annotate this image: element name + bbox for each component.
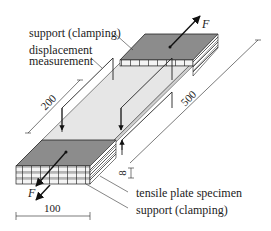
dim-label-100: 100 xyxy=(44,202,61,214)
force-label-top: F xyxy=(202,18,209,30)
tensile-plate-specimen xyxy=(40,63,196,142)
label-support-bottom: support (clamping) xyxy=(136,204,228,216)
label-support-top: support (clamping) xyxy=(29,27,121,39)
dim-label-8: 8 xyxy=(116,170,128,176)
support-clamp-bottom xyxy=(16,140,116,184)
label-measurement: measurement xyxy=(29,55,93,67)
label-specimen: tensile plate specimen xyxy=(136,187,242,199)
dimension-8 xyxy=(128,168,134,178)
force-label-bottom: F xyxy=(28,187,35,199)
